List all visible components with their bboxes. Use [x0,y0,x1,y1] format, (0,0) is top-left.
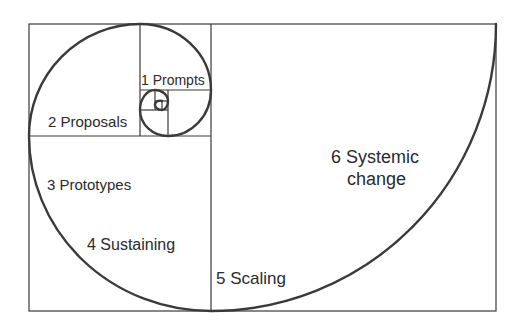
stage-2-label: 2 Proposals [48,113,127,130]
stage-5-label: 5 Scaling [216,269,286,288]
stage-3-label: 3 Prototypes [47,176,131,193]
golden-spiral-diagram: 1 Prompts 2 Proposals 3 Prototypes 4 Sus… [0,0,521,324]
stage-4-label: 4 Sustaining [87,236,175,253]
outer-frame [29,24,496,311]
stage-1-label: 1 Prompts [141,72,205,88]
stage-6-label-line2: change [347,169,406,189]
grid-lines [29,24,211,311]
spiral-curve [29,24,496,311]
stage-6-label-line1: 6 Systemic [331,147,419,167]
